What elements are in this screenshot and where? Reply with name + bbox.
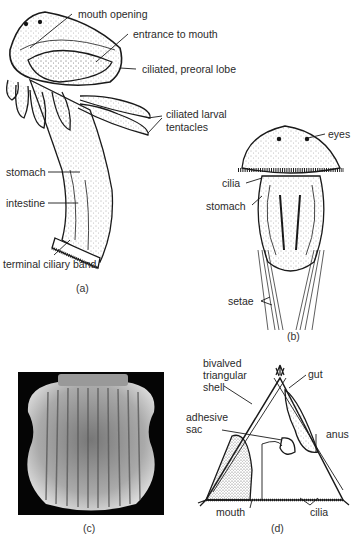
label-intestine: intestine bbox=[6, 197, 45, 209]
label-shell-line2: triangular bbox=[203, 369, 247, 381]
label-adhesive-line1: adhesive bbox=[186, 411, 228, 423]
label-shell-line1: bivalved bbox=[203, 357, 242, 369]
panel-a-drawing bbox=[7, 12, 150, 268]
caption-c: (c) bbox=[83, 522, 95, 534]
label-adhesive-line2: sac bbox=[186, 423, 202, 435]
caption-d: (d) bbox=[271, 522, 284, 534]
label-eyes: eyes bbox=[328, 128, 350, 140]
label-gut: gut bbox=[308, 368, 323, 380]
label-cilia-b: cilia bbox=[222, 177, 240, 189]
label-terminal-ciliary-band: terminal ciliary band bbox=[3, 258, 96, 270]
label-stomach-b: stomach bbox=[206, 200, 246, 212]
larva-shell-photo bbox=[18, 372, 164, 515]
panel-c-micrograph bbox=[18, 372, 164, 515]
label-entrance-to-mouth: entrance to mouth bbox=[133, 28, 218, 40]
caption-b: (b) bbox=[287, 330, 300, 342]
label-tentacles-line2: tentacles bbox=[166, 121, 208, 133]
label-anus: anus bbox=[326, 428, 349, 440]
label-shell-line3: shell bbox=[203, 381, 225, 393]
label-mouth-d: mouth bbox=[216, 506, 245, 518]
label-stomach-a: stomach bbox=[6, 166, 46, 178]
label-tentacles-line1: ciliated larval bbox=[166, 108, 227, 120]
label-cilia-d: cilia bbox=[310, 506, 328, 518]
label-preoral-lobe: ciliated, preoral lobe bbox=[142, 63, 236, 75]
label-setae: setae bbox=[228, 295, 254, 307]
label-mouth-opening: mouth opening bbox=[78, 8, 147, 20]
caption-a: (a) bbox=[76, 282, 89, 294]
